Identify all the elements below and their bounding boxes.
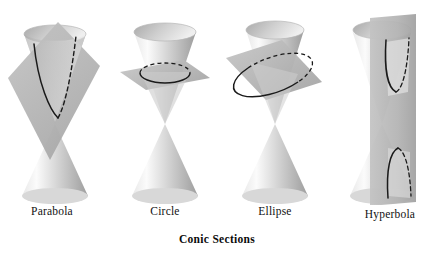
panel-hyperbola [330, 0, 434, 205]
panel-label-hyperbola: Hyperbola [320, 208, 434, 220]
conic-sections-figure: Parabola [0, 0, 434, 260]
panel-ellipse [220, 0, 330, 205]
panel-parabola [0, 0, 110, 205]
ellipse-diagram-icon [220, 0, 330, 205]
circle-diagram-icon [110, 0, 220, 205]
panel-circle [110, 0, 220, 205]
parabola-diagram-icon [0, 0, 110, 205]
lower-nappe-base [132, 188, 198, 204]
hyperbola-diagram-icon [330, 0, 434, 205]
lower-nappe-base [242, 188, 308, 204]
figure-title: Conic Sections [0, 233, 434, 245]
lower-nappe-base [22, 188, 88, 204]
